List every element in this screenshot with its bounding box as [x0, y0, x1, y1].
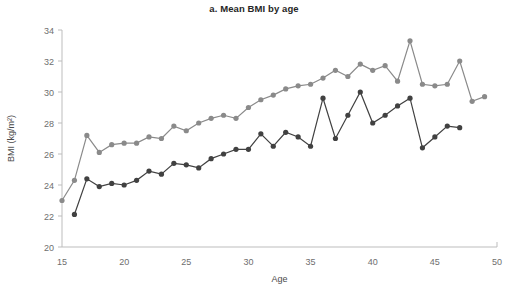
data-point — [196, 165, 201, 170]
x-tick-label: 40 — [368, 257, 378, 267]
y-tick-label: 30 — [44, 88, 54, 98]
data-point — [482, 94, 487, 99]
y-tick-label: 28 — [44, 119, 54, 129]
data-point — [159, 136, 164, 141]
data-point — [358, 89, 363, 94]
data-point — [184, 128, 189, 133]
data-point — [283, 86, 288, 91]
data-point — [109, 181, 114, 186]
data-point — [184, 162, 189, 167]
data-point — [72, 212, 77, 217]
data-point — [258, 131, 263, 136]
x-tick-label: 25 — [181, 257, 191, 267]
data-point — [320, 96, 325, 101]
data-point — [407, 96, 412, 101]
data-point — [432, 134, 437, 139]
y-tick-label: 22 — [44, 212, 54, 222]
data-point — [221, 151, 226, 156]
series-line-lower — [74, 92, 459, 214]
data-point — [271, 93, 276, 98]
data-point — [59, 198, 64, 203]
data-point — [246, 147, 251, 152]
data-point — [383, 113, 388, 118]
data-point — [109, 142, 114, 147]
data-point — [345, 113, 350, 118]
data-point — [171, 124, 176, 129]
data-point — [72, 178, 77, 183]
y-axis-title: BMI (kg/m²) — [6, 115, 16, 162]
data-point — [209, 156, 214, 161]
data-point — [420, 145, 425, 150]
y-tick-label: 26 — [44, 150, 54, 160]
x-axis-ticks: 1520253035404550 — [57, 257, 502, 267]
data-point — [171, 161, 176, 166]
y-axis-ticks: 2022242628303234 — [44, 26, 62, 253]
data-point — [159, 172, 164, 177]
data-point — [457, 125, 462, 130]
data-point — [146, 134, 151, 139]
data-point — [370, 120, 375, 125]
x-tick-label: 15 — [57, 257, 67, 267]
data-point — [333, 68, 338, 73]
data-point — [84, 133, 89, 138]
data-point — [122, 182, 127, 187]
data-point — [407, 38, 412, 43]
data-point — [122, 141, 127, 146]
y-tick-label: 32 — [44, 57, 54, 67]
data-point — [97, 150, 102, 155]
y-tick-label: 24 — [44, 181, 54, 191]
data-point — [233, 116, 238, 121]
data-point — [271, 144, 276, 149]
data-point — [432, 83, 437, 88]
data-point — [246, 105, 251, 110]
y-tick-label: 20 — [44, 243, 54, 253]
x-tick-label: 30 — [243, 257, 253, 267]
bmi-line-chart: 2022242628303234 1520253035404550 Age BM… — [0, 0, 508, 286]
data-point — [358, 62, 363, 67]
data-point — [395, 103, 400, 108]
data-point — [283, 130, 288, 135]
data-point — [320, 75, 325, 80]
data-point — [84, 176, 89, 181]
data-point — [296, 134, 301, 139]
data-point — [457, 58, 462, 63]
data-point — [134, 141, 139, 146]
x-axis-line — [62, 242, 497, 247]
series-lower — [72, 89, 462, 217]
data-point — [258, 97, 263, 102]
data-point — [383, 63, 388, 68]
data-point — [333, 136, 338, 141]
data-point — [420, 82, 425, 87]
series-line-upper — [62, 41, 485, 201]
data-point — [221, 113, 226, 118]
data-point — [308, 144, 313, 149]
data-point — [445, 124, 450, 129]
chart-figure: a. Mean BMI by age 2022242628303234 1520… — [0, 0, 508, 286]
data-point — [370, 68, 375, 73]
data-point — [196, 120, 201, 125]
series-upper — [59, 38, 487, 203]
x-tick-label: 45 — [430, 257, 440, 267]
data-point — [233, 147, 238, 152]
data-point — [395, 79, 400, 84]
data-point — [445, 82, 450, 87]
data-point — [470, 99, 475, 104]
x-tick-label: 35 — [306, 257, 316, 267]
data-point — [296, 83, 301, 88]
data-point — [345, 74, 350, 79]
x-axis-title: Age — [271, 274, 287, 284]
data-point — [134, 178, 139, 183]
data-point — [146, 168, 151, 173]
data-point — [209, 116, 214, 121]
x-tick-label: 20 — [119, 257, 129, 267]
data-point — [97, 184, 102, 189]
data-series-layer — [59, 38, 487, 217]
y-tick-label: 34 — [44, 26, 54, 36]
data-point — [308, 82, 313, 87]
x-tick-label: 50 — [492, 257, 502, 267]
